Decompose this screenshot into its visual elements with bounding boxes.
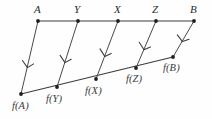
figure-canvas: [0, 0, 212, 119]
point-f-y[interactable]: [55, 85, 59, 89]
label-point-f-z: f(Z): [126, 74, 142, 85]
label-point-f-x: f(X): [85, 86, 102, 97]
geometry-figure: A Y X Z B f(A) f(Y) f(X) f(Z) f(B): [0, 0, 212, 119]
label-point-x: X: [114, 4, 121, 15]
point-x[interactable]: [116, 19, 120, 23]
label-point-f-a: f(A): [12, 101, 29, 112]
point-f-b[interactable]: [171, 55, 175, 59]
mapping-arrow-a-shaft: [21, 21, 38, 94]
mapping-arrow-z-shaft: [136, 21, 156, 68]
label-point-f-y: f(Y): [46, 94, 62, 105]
point-f-a[interactable]: [19, 92, 23, 96]
mapping-arrow-x-shaft: [96, 21, 118, 79]
mapping-arrow-b-shaft: [173, 21, 194, 57]
point-f-x[interactable]: [94, 77, 98, 81]
point-f-z[interactable]: [134, 66, 138, 70]
label-point-b: B: [190, 4, 197, 15]
point-y[interactable]: [76, 19, 80, 23]
label-point-f-b: f(B): [163, 63, 180, 74]
mapping-arrowhead-b-icon: [177, 35, 189, 42]
point-z[interactable]: [154, 19, 158, 23]
label-point-y: Y: [74, 4, 80, 15]
label-point-a: A: [34, 4, 41, 15]
point-a[interactable]: [36, 19, 40, 23]
label-point-z: Z: [152, 4, 158, 15]
point-b[interactable]: [192, 19, 196, 23]
mapping-arrow-y-shaft: [57, 21, 78, 87]
